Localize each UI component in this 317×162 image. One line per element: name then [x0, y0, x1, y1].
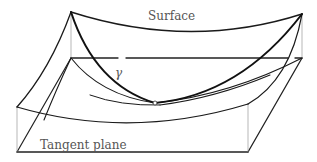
tangent-plane-label: Tangent plane [40, 139, 127, 151]
curve-gamma-label: γ [115, 67, 122, 79]
surface [17, 12, 302, 123]
surface-label: Surface [148, 10, 195, 22]
tangent-point-marker [153, 101, 157, 105]
tangent-plane-diagram: Surface γ Tangent plane [0, 0, 317, 162]
